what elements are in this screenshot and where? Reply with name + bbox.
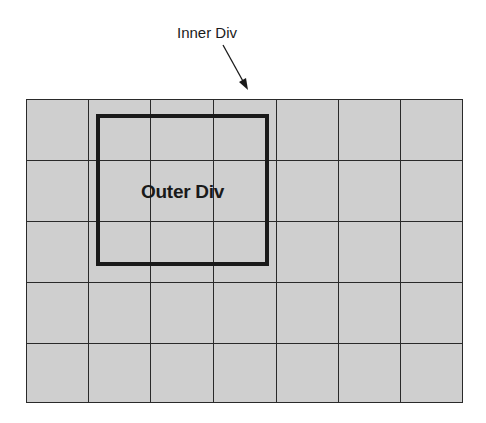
pointer-arrow-icon [0, 0, 486, 423]
